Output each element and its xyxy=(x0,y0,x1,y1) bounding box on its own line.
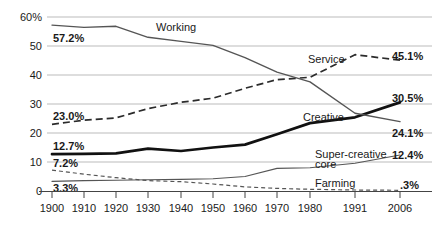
x-tick-label-1920: 1920 xyxy=(104,202,128,214)
super-creative-core-end-value: 12.4% xyxy=(392,149,423,161)
creative-end-value: 30.5% xyxy=(392,92,423,104)
y-tick-label-10: 10 xyxy=(30,156,42,168)
super-creative-core-start-value: 3.3% xyxy=(53,182,78,194)
service-start-value: 23.0% xyxy=(53,110,84,122)
x-tick-label-1910: 1910 xyxy=(72,202,96,214)
x-tick-label-1940: 1940 xyxy=(169,202,193,214)
super-creative-core-series-label-line2: core xyxy=(315,158,336,170)
x-tick-label-1900: 1900 xyxy=(40,202,64,214)
x-tick-label-1960: 1960 xyxy=(233,202,257,214)
farming-series-label: Farming xyxy=(315,177,355,189)
creative-start-value: 12.7% xyxy=(53,140,84,152)
x-tick-label-1950: 1950 xyxy=(201,202,225,214)
working-end-value: 24.1% xyxy=(392,127,423,139)
creative-series-label: Creative xyxy=(303,111,344,123)
x-tick-label-2006: 2006 xyxy=(388,202,412,214)
farming-end-value: .3% xyxy=(400,179,419,191)
farming-start-value: 7.2% xyxy=(53,157,78,169)
x-tick-label-1991: 1991 xyxy=(343,202,367,214)
x-tick-label-1970: 1970 xyxy=(265,202,289,214)
working-series-label: Working xyxy=(156,21,196,33)
service-end-value: 45.1% xyxy=(392,50,423,62)
y-tick-label-30: 30 xyxy=(30,98,42,110)
y-tick-label-40: 40 xyxy=(30,69,42,81)
y-tick-label-20: 20 xyxy=(30,127,42,139)
chart-svg: 60% 50 40 30 20 10 0 57.2% 23.0% 12.7% xyxy=(0,0,439,232)
y-tick-label-50: 50 xyxy=(30,40,42,52)
y-tick-label-60: 60% xyxy=(20,11,42,23)
x-tick-label-1930: 1930 xyxy=(136,202,160,214)
working-start-value: 57.2% xyxy=(53,32,84,44)
x-tick-label-1980: 1980 xyxy=(298,202,322,214)
service-series-label: Service xyxy=(308,53,345,65)
line-chart: 60% 50 40 30 20 10 0 57.2% 23.0% 12.7% xyxy=(0,0,439,232)
